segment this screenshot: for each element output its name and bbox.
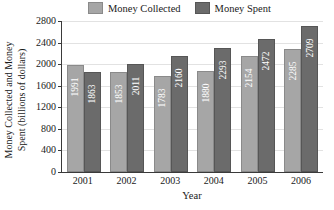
y-axis-tick-label: 1600 xyxy=(36,81,56,91)
y-axis-title-line-2: Spent (billions of dollars) xyxy=(15,42,28,159)
x-axis-tick-label-2006: 2006 xyxy=(281,175,321,186)
x-axis-tick-label-2003: 2003 xyxy=(150,175,190,186)
chart-legend: Money Collected Money Spent xyxy=(88,0,328,16)
bar-group: 21542472 xyxy=(241,21,275,172)
legend-swatch-money-collected xyxy=(88,2,103,14)
bar-money-collected-2001: 1991 xyxy=(67,65,84,172)
bar-group: 22852709 xyxy=(284,21,318,172)
bar-money-collected-2002: 1853 xyxy=(110,72,127,172)
bar-value-label: 2160 xyxy=(174,68,184,87)
y-axis-tick-label: 2000 xyxy=(36,59,56,69)
bar-value-label: 2293 xyxy=(218,61,228,80)
legend-item-money-spent: Money Spent xyxy=(195,2,271,14)
bar-chart: Money Collected Money Spent Money Collec… xyxy=(0,0,334,210)
bar-money-collected-2005: 2154 xyxy=(241,56,258,172)
bar-money-spent-2001: 1863 xyxy=(84,72,101,172)
legend-label-money-spent: Money Spent xyxy=(215,3,271,14)
bar-value-label: 2709 xyxy=(305,38,315,57)
bar-group: 18802293 xyxy=(197,21,231,172)
bar-money-spent-2002: 2011 xyxy=(127,64,144,172)
y-axis-tick-label: 400 xyxy=(41,145,56,155)
bar-value-label: 2472 xyxy=(261,51,271,70)
x-axis-tick-labels: 200120022003200420052006 xyxy=(61,175,323,189)
y-axis-tick-label: 2800 xyxy=(36,16,56,26)
y-axis-title-line-1: Money Collected and Money xyxy=(3,42,16,159)
legend-swatch-money-spent xyxy=(195,2,210,14)
legend-item-money-collected: Money Collected xyxy=(88,2,181,14)
bar-group: 19911863 xyxy=(67,21,101,172)
bar-money-collected-2006: 2285 xyxy=(284,49,301,172)
bar-value-label: 1991 xyxy=(70,77,80,96)
bar-groups: 1991186318532011178321601880229321542472… xyxy=(62,21,323,172)
y-axis-tick-mark xyxy=(58,172,62,173)
legend-label-money-collected: Money Collected xyxy=(108,3,181,14)
x-axis-tick-label-2004: 2004 xyxy=(194,175,234,186)
bar-value-label: 1783 xyxy=(157,88,167,107)
bar-group: 18532011 xyxy=(110,21,144,172)
x-axis-tick-label-2001: 2001 xyxy=(63,175,103,186)
bar-money-collected-2003: 1783 xyxy=(154,76,171,172)
bar-money-collected-2004: 1880 xyxy=(197,71,214,172)
bar-value-label: 1853 xyxy=(114,85,124,104)
bar-value-label: 2154 xyxy=(244,68,254,87)
y-axis-tick-label: 0 xyxy=(51,167,56,177)
x-axis-title: Year xyxy=(61,190,323,202)
plot-area: 040080012001600200024002800 199118631853… xyxy=(61,21,323,173)
y-axis-tick-label: 800 xyxy=(41,124,56,134)
bar-value-label: 2011 xyxy=(131,76,141,95)
bar-value-label: 1880 xyxy=(201,83,211,102)
bar-group: 17832160 xyxy=(154,21,188,172)
bar-value-label: 1863 xyxy=(87,84,97,103)
bar-value-label: 2285 xyxy=(288,61,298,80)
x-axis-tick-label-2005: 2005 xyxy=(237,175,277,186)
y-axis-tick-label: 1200 xyxy=(36,102,56,112)
y-axis-title: Money Collected and Money Spent (billion… xyxy=(0,20,30,180)
bar-money-spent-2004: 2293 xyxy=(214,48,231,172)
x-axis-tick-label-2002: 2002 xyxy=(106,175,146,186)
bar-money-spent-2006: 2709 xyxy=(301,26,318,172)
bar-money-spent-2003: 2160 xyxy=(171,56,188,172)
y-axis-tick-label: 2400 xyxy=(36,38,56,48)
bar-money-spent-2005: 2472 xyxy=(258,39,275,172)
